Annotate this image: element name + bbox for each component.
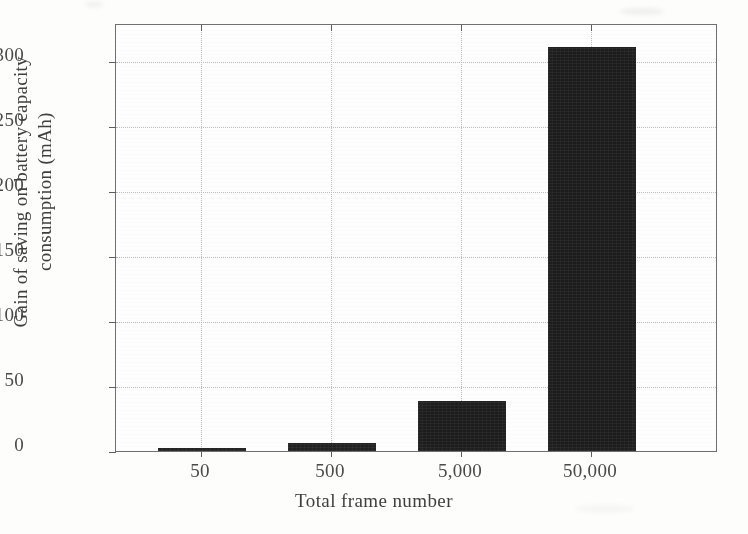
bar-cat-50000[interactable] bbox=[548, 47, 636, 451]
bar-cat-5000[interactable] bbox=[418, 401, 506, 451]
y-axis-title-line2: consumption (mAh) bbox=[33, 0, 57, 387]
x-axis-title: Total frame number bbox=[0, 490, 748, 512]
y-axis-title: Gain of saving on battery capacity consu… bbox=[9, 0, 57, 387]
x-tick-cat4 bbox=[591, 451, 592, 457]
x-tick-top-cat2 bbox=[331, 25, 332, 31]
gridline-x-cat3 bbox=[461, 25, 462, 451]
y-tick-200 bbox=[109, 192, 116, 193]
bar-chart-figure: 300 250 200 150 100 50 0 Gain of saving … bbox=[0, 0, 748, 534]
x-tick-label-cat1: 50 bbox=[150, 460, 250, 482]
bar-cat-50[interactable] bbox=[158, 448, 246, 451]
y-tick-250 bbox=[109, 127, 116, 128]
x-tick-top-cat4 bbox=[591, 25, 592, 31]
scan-artifact bbox=[85, 2, 103, 7]
gridline-x-cat1 bbox=[201, 25, 202, 451]
scan-artifact bbox=[620, 8, 664, 15]
x-tick-top-cat3 bbox=[461, 25, 462, 31]
y-tick-300 bbox=[109, 62, 116, 63]
y-tick-0 bbox=[109, 452, 116, 453]
y-axis-title-line1: Gain of saving on battery capacity bbox=[9, 0, 33, 387]
x-tick-label-cat4: 50,000 bbox=[540, 460, 640, 482]
x-tick-top-cat1 bbox=[201, 25, 202, 31]
y-tick-50 bbox=[109, 387, 116, 388]
y-tick-100 bbox=[109, 322, 116, 323]
y-tick-label: 0 bbox=[14, 434, 24, 456]
y-tick-150 bbox=[109, 257, 116, 258]
plot-area bbox=[115, 24, 717, 452]
x-tick-cat3 bbox=[461, 451, 462, 457]
gridline-x-cat2 bbox=[331, 25, 332, 451]
bar-cat-500[interactable] bbox=[288, 443, 376, 451]
x-tick-cat1 bbox=[201, 451, 202, 457]
x-tick-cat2 bbox=[331, 451, 332, 457]
x-tick-label-cat3: 5,000 bbox=[410, 460, 510, 482]
x-tick-label-cat2: 500 bbox=[280, 460, 380, 482]
